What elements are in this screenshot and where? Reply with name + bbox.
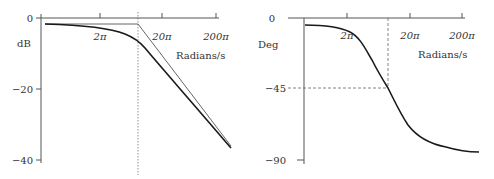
xtick-20pi: 20π bbox=[151, 31, 172, 42]
ytick-45: −45 bbox=[265, 83, 286, 94]
xtick-200pi: 200π bbox=[448, 30, 475, 41]
ytick-40: −40 bbox=[12, 155, 33, 166]
x-axis-label: Radians/s bbox=[418, 49, 467, 60]
ytick-0: 0 bbox=[27, 13, 33, 24]
y-axis-label: dB bbox=[17, 38, 31, 49]
xtick-20pi: 20π bbox=[399, 30, 420, 41]
phase-curve bbox=[305, 25, 479, 152]
ytick-90: −90 bbox=[265, 155, 286, 166]
y-axis-label: Deg bbox=[258, 39, 279, 50]
phase-plot: 0 −45 −90 Deg 2π 20π 200π Radians/s bbox=[258, 13, 479, 166]
ytick-0: 0 bbox=[269, 13, 275, 24]
magnitude-plot: 0 −20 −40 dB 2π 20π 200π Radians/s bbox=[12, 12, 231, 175]
xtick-200pi: 200π bbox=[202, 31, 229, 42]
x-axis-label: Radians/s bbox=[176, 50, 225, 61]
xtick-2pi: 2π bbox=[93, 31, 107, 42]
ytick-20: −20 bbox=[12, 84, 33, 95]
xtick-2pi: 2π bbox=[340, 30, 354, 41]
bode-plots: 0 −20 −40 dB 2π 20π 200π Radians/s 0 −45… bbox=[0, 0, 494, 179]
